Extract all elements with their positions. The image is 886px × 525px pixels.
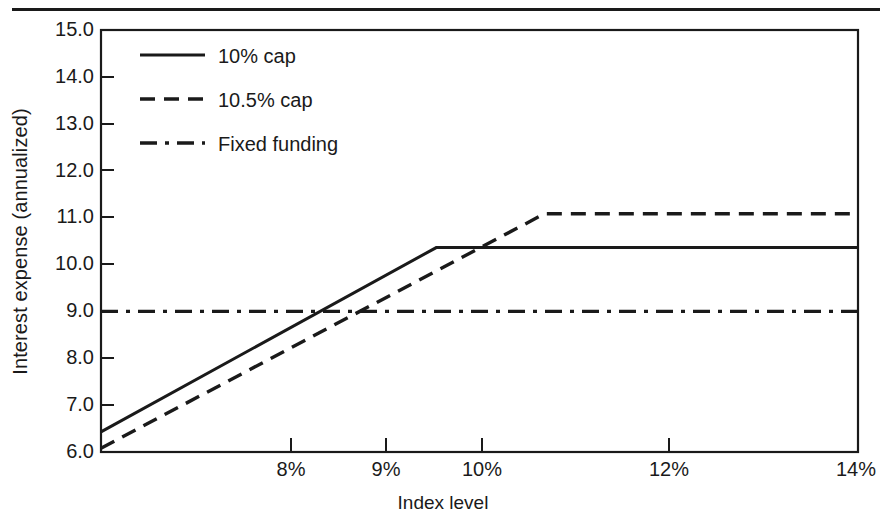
x-axis-ticks: [291, 438, 669, 452]
figure-container: Interest expense (annualized) 15.0 14.0 …: [0, 0, 886, 525]
y-axis-ticks: [101, 77, 114, 405]
series-line-10pct-cap: [101, 248, 858, 432]
chart-plot-area: [0, 0, 886, 525]
